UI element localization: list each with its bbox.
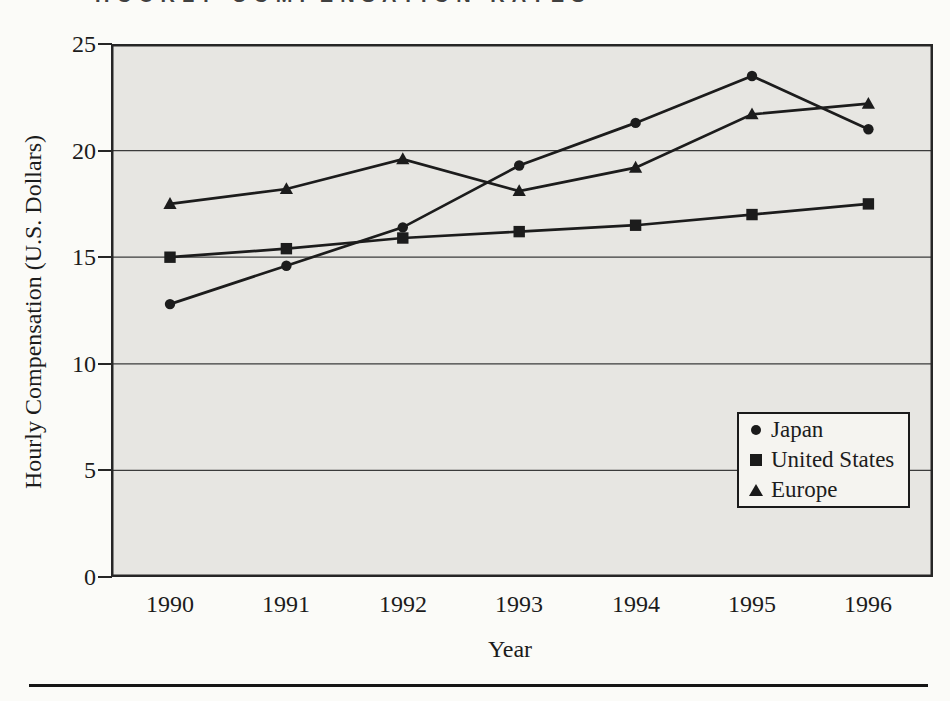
y-tick-25: [98, 43, 112, 45]
marker-united-states-1995: [746, 209, 757, 220]
y-tick-label-0: 0: [36, 564, 96, 590]
square-marker-icon: [748, 454, 763, 466]
legend-item-japan: Japan: [748, 416, 908, 444]
legend-label-europe: Europe: [771, 476, 837, 504]
clipped-top-heading: HOURLY COMPENSATION RATES: [95, 0, 775, 7]
marker-united-states-1996: [863, 198, 874, 209]
x-tick-label-1995: 1995: [707, 590, 797, 618]
y-axis-title: Hourly Compensation (U.S. Dollars): [20, 135, 47, 489]
marker-japan-1994: [630, 118, 640, 128]
y-tick-label-15: 15: [36, 244, 96, 270]
circle-marker-icon: [748, 425, 763, 435]
marker-united-states-1992: [397, 232, 408, 243]
y-tick-label-10: 10: [36, 351, 96, 377]
x-tick-label-1990: 1990: [125, 590, 215, 618]
marker-europe-1992: [396, 152, 409, 164]
top-heading-text: HOURLY COMPENSATION RATES: [95, 0, 775, 7]
marker-japan-1995: [747, 71, 757, 81]
y-tick-0: [98, 576, 112, 578]
x-tick-label-1991: 1991: [241, 590, 331, 618]
marker-japan-1993: [514, 160, 524, 170]
marker-japan-1991: [281, 261, 291, 271]
legend-item-europe: Europe: [748, 476, 908, 504]
x-tick-label-1994: 1994: [591, 590, 681, 618]
x-tick-label-1993: 1993: [474, 590, 564, 618]
marker-japan-1992: [398, 222, 408, 232]
legend-label-japan: Japan: [771, 416, 823, 444]
legend-box: Japan United States Europe: [737, 412, 910, 508]
marker-united-states-1990: [164, 252, 175, 263]
y-tick-20: [98, 150, 112, 152]
legend-item-united-states: United States: [748, 446, 908, 474]
y-tick-10: [98, 363, 112, 365]
y-tick-label-25: 25: [36, 31, 96, 57]
triangle-marker-icon: [748, 484, 763, 496]
y-tick-15: [98, 256, 112, 258]
x-tick-label-1992: 1992: [358, 590, 448, 618]
x-axis-title: Year: [460, 636, 560, 663]
x-tick-label-1996: 1996: [823, 590, 913, 618]
y-tick-label-20: 20: [36, 138, 96, 164]
marker-japan-1990: [165, 299, 175, 309]
y-tick-5: [98, 469, 112, 471]
marker-united-states-1993: [514, 226, 525, 237]
legend-label-united-states: United States: [771, 446, 894, 474]
marker-japan-1996: [863, 124, 873, 134]
bottom-rule: [29, 684, 928, 687]
marker-united-states-1991: [281, 243, 292, 254]
marker-united-states-1994: [630, 220, 641, 231]
y-tick-label-5: 5: [36, 457, 96, 483]
figure-page: HOURLY COMPENSATION RATES Hourly Compens…: [0, 0, 950, 701]
